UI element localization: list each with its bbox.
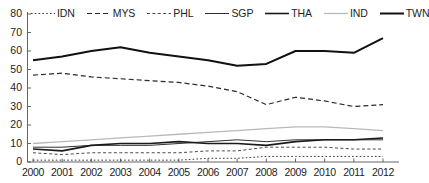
series-line-mys bbox=[33, 73, 383, 106]
legend-label: TWN bbox=[406, 8, 429, 19]
series-line-twn bbox=[33, 38, 383, 66]
series-line-phl bbox=[33, 147, 383, 154]
series-lines bbox=[33, 38, 383, 160]
series-line-ind bbox=[33, 127, 383, 144]
